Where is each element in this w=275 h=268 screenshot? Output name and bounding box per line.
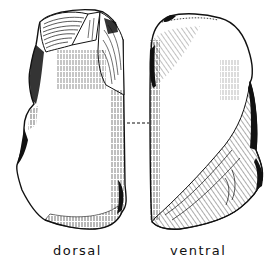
label-ventral: ventral [170,243,226,258]
label-dorsal: dorsal [53,243,102,258]
artifact-drawing [0,0,275,268]
dorsal-view [17,10,126,230]
ventral-view [150,14,263,229]
artifact-figure: dorsal ventral [0,0,275,268]
